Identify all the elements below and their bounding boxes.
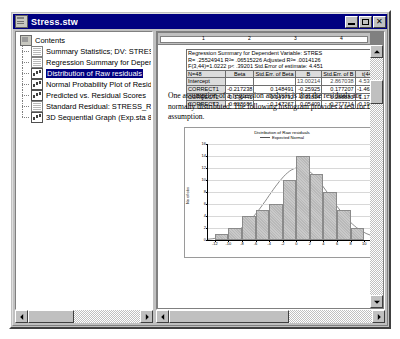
sidebar-item-3d-sequential-graph[interactable]: 3D Sequential Graph (Exp.sta 8v*48 bbox=[31, 112, 151, 123]
doc-scroll-left-button[interactable] bbox=[156, 310, 169, 323]
tree-item-label: Summary Statistics; DV: STRESS_R bbox=[46, 47, 151, 56]
spreadsheet-icon bbox=[31, 57, 43, 68]
chart-gridline bbox=[208, 144, 370, 145]
row-label: Intercept bbox=[187, 78, 226, 86]
x-axis-tick bbox=[323, 240, 324, 242]
histogram-bar bbox=[256, 210, 270, 240]
x-axis-tick-label: -4 bbox=[267, 242, 271, 246]
chevron-right-icon bbox=[377, 314, 380, 320]
doc-scroll-right-button[interactable] bbox=[372, 310, 385, 323]
document-paragraph: One assumption of a regression analysis … bbox=[168, 91, 370, 123]
sidebar-item-standard-residual[interactable]: Standard Residual: STRESS_R (Exp bbox=[31, 101, 151, 112]
histogram-bar bbox=[242, 216, 256, 240]
tree-item-label: 3D Sequential Graph (Exp.sta 8v*48 bbox=[46, 113, 151, 122]
document-horizontal-scrollbar[interactable] bbox=[156, 310, 385, 323]
minimize-button[interactable] bbox=[345, 16, 358, 28]
histogram-bar bbox=[269, 204, 283, 240]
chevron-left-icon bbox=[161, 314, 164, 320]
window-titlebar[interactable]: Stress.stw ✕ bbox=[13, 14, 387, 29]
document-page[interactable]: Regression Summary for Dependent Variabl… bbox=[158, 45, 370, 308]
tree-connector bbox=[22, 101, 31, 112]
histogram-bar bbox=[296, 156, 310, 240]
column-header-std-err-beta: Std.Err. of Beta bbox=[254, 70, 295, 78]
doc-h-scroll-thumb[interactable] bbox=[169, 310, 289, 323]
tree-scroll-area[interactable]: Contents Summary Statistics; DV: STRESS_… bbox=[17, 33, 151, 308]
tree-h-scroll-thumb[interactable] bbox=[28, 310, 74, 323]
cell-beta bbox=[226, 78, 254, 86]
legend-line-swatch bbox=[260, 137, 270, 138]
sidebar-item-regression-summary[interactable]: Regression Summary for Dependen bbox=[31, 57, 151, 68]
x-axis-tick bbox=[242, 240, 243, 242]
tree-item-label: Distribution of Raw residuals bbox=[46, 69, 143, 78]
x-axis-tick bbox=[228, 240, 229, 242]
tree-root-label: Contents bbox=[35, 36, 65, 45]
table-header-line-1: Regression Summary for Dependent Variabl… bbox=[188, 50, 370, 57]
vertical-scroll-track[interactable] bbox=[370, 58, 383, 295]
tree-horizontal-scrollbar[interactable] bbox=[15, 310, 153, 323]
workbook-icon bbox=[15, 15, 28, 28]
x-axis-tick-label: 10 bbox=[362, 242, 366, 246]
histogram-bar bbox=[351, 228, 365, 240]
tree-h-scroll-track[interactable] bbox=[28, 310, 140, 323]
table-corner-label: N=48 bbox=[187, 70, 226, 78]
vertical-scroll-thumb[interactable] bbox=[370, 80, 383, 104]
column-header-std-err-b: Std.Err. of B bbox=[322, 70, 355, 78]
column-header-beta: Beta bbox=[226, 70, 254, 78]
sidebar-item-normal-probability-plot[interactable]: Normal Probability Plot of Residuals bbox=[31, 79, 151, 90]
y-axis-tick bbox=[206, 192, 208, 193]
scroll-left-button[interactable] bbox=[15, 310, 28, 323]
sidebar-item-summary-statistics[interactable]: Summary Statistics; DV: STRESS_R bbox=[31, 46, 151, 57]
x-axis-tick bbox=[364, 240, 365, 242]
legend-label-expected-normal: Expected Normal bbox=[272, 135, 304, 140]
histogram-chart[interactable]: Distribution of Raw residuals Expected N… bbox=[184, 127, 370, 258]
tree-item-label: Standard Residual: STRESS_R (Exp bbox=[46, 102, 151, 111]
maximize-button[interactable] bbox=[359, 16, 372, 28]
x-axis-tick-label: 6 bbox=[336, 242, 338, 246]
document-inner: 1 2 3 4 Regression Summary for Dependent… bbox=[158, 33, 383, 308]
scroll-up-button[interactable] bbox=[370, 45, 383, 58]
window-client-area: Contents Summary Statistics; DV: STRESS_… bbox=[15, 31, 385, 323]
document-vertical-scrollbar[interactable] bbox=[370, 45, 383, 308]
close-button[interactable]: ✕ bbox=[373, 16, 386, 28]
x-axis-tick bbox=[256, 240, 257, 242]
tree-connector bbox=[22, 79, 31, 90]
histogram-bar bbox=[283, 180, 297, 240]
contents-tree-pane[interactable]: Contents Summary Statistics; DV: STRESS_… bbox=[15, 31, 153, 310]
graph-icon bbox=[31, 79, 43, 90]
chevron-right-icon bbox=[145, 314, 148, 320]
graph-icon bbox=[31, 90, 43, 101]
x-axis-tick bbox=[269, 240, 270, 242]
doc-h-scroll-track[interactable] bbox=[169, 310, 372, 323]
y-axis-tick bbox=[206, 144, 208, 145]
sidebar-item-predicted-vs-residual[interactable]: Predicted vs. Residual Scores bbox=[31, 90, 151, 101]
ruler-mark: 2 bbox=[248, 36, 251, 41]
ruler-mark: 1 bbox=[202, 36, 205, 41]
x-axis-tick bbox=[310, 240, 311, 242]
chart-plot-area: 0246810121416-12-10-8-6-4-20246810 bbox=[207, 144, 370, 241]
document-pane: 1 2 3 4 Regression Summary for Dependent… bbox=[156, 31, 385, 310]
cell-t44: 4.53409 bbox=[355, 78, 370, 86]
x-axis-tick-label: -6 bbox=[254, 242, 258, 246]
table-row[interactable]: Intercept 13.00214 2.867038 4.53409 bbox=[187, 78, 371, 86]
table-header-line-2: R= .25524941 R²= .06515226 Adjusted R²= … bbox=[188, 57, 370, 64]
tree-root-item[interactable]: Contents bbox=[20, 35, 151, 46]
x-axis-tick bbox=[283, 240, 284, 242]
x-axis-tick bbox=[351, 240, 352, 242]
graph-icon bbox=[31, 112, 43, 123]
y-axis-tick bbox=[206, 180, 208, 181]
workbook-window: Stress.stw ✕ Contents Summar bbox=[9, 10, 391, 329]
table-header-block: Regression Summary for Dependent Variabl… bbox=[187, 50, 371, 71]
horizontal-ruler[interactable]: 1 2 3 4 bbox=[158, 33, 370, 45]
histogram-bar bbox=[323, 192, 337, 240]
sidebar-item-distribution-raw-residuals[interactable]: Distribution of Raw residuals bbox=[31, 68, 151, 79]
x-axis-tick-label: -8 bbox=[240, 242, 244, 246]
scroll-down-button[interactable] bbox=[370, 295, 383, 308]
ruler-numbers: 1 2 3 4 bbox=[158, 35, 370, 42]
y-axis-title: No of obs bbox=[185, 186, 190, 203]
cell-b: 13.00214 bbox=[295, 78, 322, 86]
scroll-right-button[interactable] bbox=[140, 310, 153, 323]
x-axis-tick-label: 4 bbox=[322, 242, 324, 246]
y-axis-tick bbox=[206, 240, 208, 241]
cell-std-err-b: 2.867038 bbox=[322, 78, 355, 86]
screenshot-root: Stress.stw ✕ Contents Summar bbox=[0, 0, 400, 339]
